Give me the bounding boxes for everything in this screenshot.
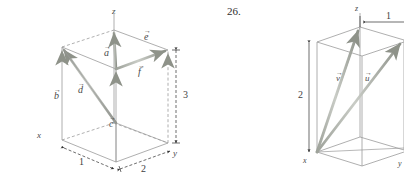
right-box-edges (317, 13, 404, 166)
vector-u-shaft (317, 44, 400, 152)
vector-label-u: →u (365, 72, 372, 83)
right-axis-label-x: x (303, 157, 307, 165)
figure-right-graphic (0, 0, 404, 182)
problem-number-26: 26. (227, 6, 241, 17)
vector-label-v: →v (336, 72, 343, 83)
dimension-label-width-1-right: 1 (386, 11, 391, 21)
right-axis-label-z: z (355, 5, 358, 13)
vector-v-shaft (317, 31, 358, 152)
right-vectors (317, 31, 400, 152)
dimension-label-height-2-right: 2 (298, 90, 303, 100)
right-axis-label-y: y (398, 160, 402, 168)
